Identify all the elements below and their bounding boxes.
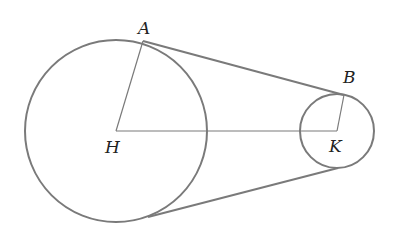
label-b: B (343, 69, 356, 86)
radius-kb (337, 95, 344, 131)
label-a: A (138, 20, 150, 37)
label-h: H (105, 139, 120, 156)
upper-tangent-ab (143, 41, 344, 95)
diagram-canvas: A B H K (0, 0, 394, 234)
diagram-svg (0, 0, 394, 234)
radius-ha (116, 41, 143, 131)
label-k: K (329, 138, 342, 155)
lower-tangent (148, 168, 338, 217)
